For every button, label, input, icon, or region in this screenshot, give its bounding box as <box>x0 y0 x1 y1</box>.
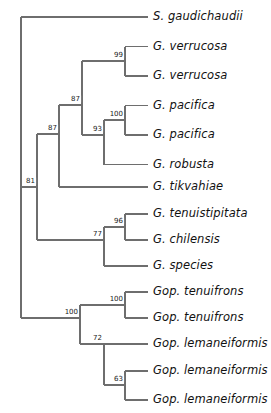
taxon-label-gop-tenuifrons-2: Gop. tenuifrons <box>153 312 244 324</box>
support-value-node-81: 81 <box>25 178 36 185</box>
support-value-node-96: 96 <box>113 218 124 225</box>
taxon-label-g-chilensis: G. chilensis <box>153 234 220 246</box>
taxon-label-gop-lemaneiformis-3: Gop. lemaneiformis <box>153 394 268 406</box>
support-value-node-87a: 87 <box>70 96 81 103</box>
taxon-label-g-verrucosa-2: G. verrucosa <box>153 70 227 82</box>
support-value-node-63: 63 <box>113 376 124 383</box>
taxon-label-g-pacifica-1: G. pacifica <box>153 100 215 112</box>
support-value-node-87b: 87 <box>47 125 58 132</box>
taxon-label-g-tenuistipitata: G. tenuistipitata <box>153 208 248 220</box>
phylogenetic-tree-figure: S. gaudichaudii G. verrucosa G. verrucos… <box>0 0 271 413</box>
taxon-label-g-tikvahiae: G. tikvahiae <box>153 181 223 193</box>
taxon-label-gop-lemaneiformis-1: Gop. lemaneiformis <box>153 338 268 350</box>
support-value-node-77: 77 <box>92 231 103 238</box>
support-value-node-100a: 100 <box>109 111 124 118</box>
taxon-label-g-pacifica-2: G. pacifica <box>153 129 215 141</box>
taxon-label-s-gaudichaudii: S. gaudichaudii <box>153 11 243 23</box>
taxon-label-g-robusta: G. robusta <box>153 159 214 171</box>
taxon-label-gop-tenuifrons-1: Gop. tenuifrons <box>153 286 244 298</box>
support-value-node-100b: 100 <box>109 296 124 303</box>
taxon-label-g-verrucosa-1: G. verrucosa <box>153 41 227 53</box>
support-value-node-93: 93 <box>92 126 103 133</box>
taxon-label-gop-lemaneiformis-2: Gop. lemaneiformis <box>153 365 268 377</box>
support-value-node-99a: 99 <box>113 52 124 59</box>
support-value-node-72: 72 <box>92 335 103 342</box>
support-value-node-100c: 100 <box>64 309 79 316</box>
taxon-label-g-species: G. species <box>153 260 213 272</box>
